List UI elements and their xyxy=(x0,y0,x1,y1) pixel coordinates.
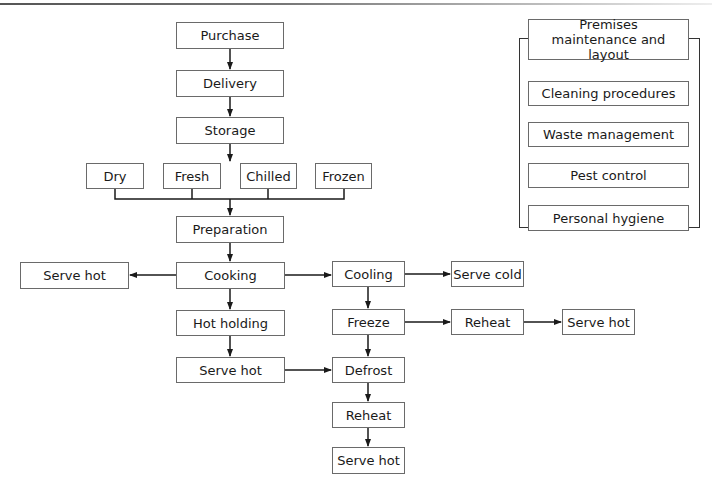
storage-dry: Dry xyxy=(86,163,144,189)
delivery-step: Delivery xyxy=(176,70,284,97)
serve-hot-right: Serve hot xyxy=(562,309,635,335)
reheat-bottom: Reheat xyxy=(332,402,405,428)
cooking-step: Cooking xyxy=(176,262,285,289)
serve-hot-bottom: Serve hot xyxy=(332,447,405,474)
hot-holding-step: Hot holding xyxy=(176,310,285,336)
defrost-step: Defrost xyxy=(332,357,405,383)
prereq-pest: Pest control xyxy=(528,163,689,188)
storage-fresh: Fresh xyxy=(163,163,221,189)
cooling-step: Cooling xyxy=(332,261,405,287)
reheat-right: Reheat xyxy=(451,309,524,335)
serve-cold: Serve cold xyxy=(451,261,524,287)
prereq-hygiene: Personal hygiene xyxy=(528,205,689,231)
serve-hot-mid: Serve hot xyxy=(176,357,285,383)
preparation-step: Preparation xyxy=(176,216,284,243)
purchase-step: Purchase xyxy=(176,22,284,49)
prereq-cleaning: Cleaning procedures xyxy=(528,81,689,106)
storage-frozen: Frozen xyxy=(315,163,372,189)
storage-step: Storage xyxy=(176,117,284,144)
prereq-premises: Premises maintenance and layout xyxy=(528,19,689,60)
prereq-waste: Waste management xyxy=(528,122,689,147)
freeze-step: Freeze xyxy=(332,309,405,335)
storage-chilled: Chilled xyxy=(240,163,297,189)
serve-hot-left: Serve hot xyxy=(20,262,129,289)
